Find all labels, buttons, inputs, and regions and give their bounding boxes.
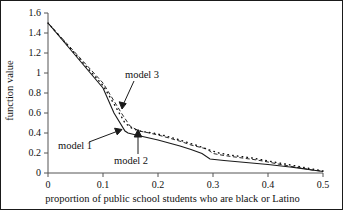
y-tick-label-1-2: 1.2 (15, 48, 41, 58)
annotation-arrow-model-1 (89, 128, 122, 142)
y-tick-label-0-2: 0.2 (15, 148, 41, 158)
series-label-model-1: model 1 (58, 140, 92, 151)
plot-area (1, 1, 343, 210)
y-tick-label-1-4: 1.4 (15, 28, 41, 38)
x-tick-marks (48, 173, 323, 177)
x-tick-label-0-2: 0.2 (144, 180, 172, 190)
x-tick-label-0-5: 0.5 (309, 180, 337, 190)
y-axis-title: function value (4, 51, 15, 131)
y-tick-label-0-4: 0.4 (15, 128, 41, 138)
annotation-arrow-model-3 (119, 81, 134, 109)
y-tick-label-1: 1 (15, 68, 41, 78)
x-tick-label-0-1: 0.1 (89, 180, 117, 190)
y-tick-label-0: 0 (15, 168, 41, 178)
y-tick-label-0-6: 0.6 (15, 108, 41, 118)
y-tick-label-0-8: 0.8 (15, 88, 41, 98)
annotation-arrow-model-2 (134, 130, 142, 155)
x-axis-title: proportion of public school students who… (1, 193, 343, 204)
series-label-model-2: model 2 (114, 155, 148, 166)
y-tick-label-1-6: 1.6 (15, 8, 41, 18)
chart-figure: 0 0.2 0.4 0.6 0.8 1 1.2 1.4 1.6 0 0.1 0.… (0, 0, 343, 210)
x-tick-label-0-4: 0.4 (254, 180, 282, 190)
series-label-model-3: model 3 (125, 69, 159, 80)
y-tick-marks (44, 13, 48, 173)
x-tick-label-0-3: 0.3 (199, 180, 227, 190)
x-tick-label-0: 0 (34, 180, 62, 190)
